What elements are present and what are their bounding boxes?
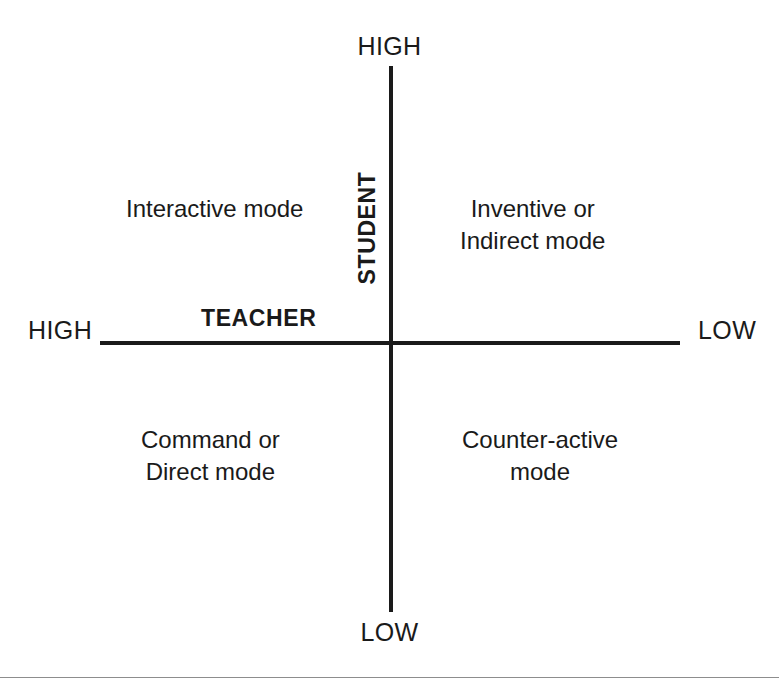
horizontal-axis-low-label: LOW [698,316,756,345]
vertical-axis-line [389,66,393,612]
horizontal-axis-name: TEACHER [201,305,316,332]
vertical-axis-high-label: HIGH [0,32,779,61]
quadrant-top-right-line2: Indirect mode [460,225,605,257]
quadrant-label-top-right: Inventive or Indirect mode [460,193,605,256]
horizontal-axis-line [100,341,680,345]
quadrant-top-right-line1: Inventive or [460,193,605,225]
quadrant-top-left-line1: Interactive mode [126,193,303,225]
quadrant-bottom-right-line1: Counter-active [462,424,618,456]
quadrant-bottom-left-line1: Command or [141,424,280,456]
quadrant-label-bottom-right: Counter-active mode [462,424,618,487]
vertical-axis-low-label: LOW [0,618,779,647]
quadrant-diagram: HIGH LOW HIGH LOW TEACHER STUDENT Intera… [0,0,779,686]
quadrant-label-top-left: Interactive mode [126,193,303,225]
quadrant-label-bottom-left: Command or Direct mode [141,424,280,487]
bottom-divider [0,677,779,678]
quadrant-bottom-left-line2: Direct mode [141,456,280,488]
horizontal-axis-high-label: HIGH [28,316,92,345]
quadrant-bottom-right-line2: mode [462,456,618,488]
vertical-axis-name: STUDENT [354,172,381,285]
